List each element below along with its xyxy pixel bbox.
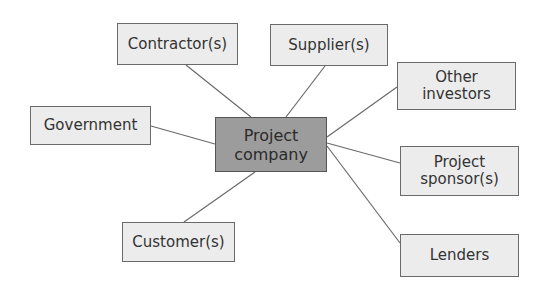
- edge-other-investors: [327, 87, 397, 137]
- node-label: Project company: [234, 126, 308, 164]
- node-contractors: Contractor(s): [117, 23, 238, 65]
- edge-customers: [184, 172, 255, 222]
- edge-suppliers: [286, 66, 325, 117]
- node-government: Government: [30, 106, 151, 145]
- node-label: Project sponsor(s): [420, 154, 499, 188]
- node-label: Contractor(s): [128, 36, 227, 53]
- node-label: Lenders: [430, 247, 490, 264]
- node-project-company: Project company: [215, 117, 327, 172]
- edge-contractors: [186, 65, 251, 117]
- node-label: Other investors: [422, 69, 491, 103]
- node-label: Customer(s): [132, 234, 224, 251]
- node-lenders: Lenders: [400, 234, 519, 277]
- node-label: Government: [44, 117, 138, 134]
- node-project-sponsors: Project sponsor(s): [400, 146, 519, 196]
- edge-government: [151, 126, 215, 144]
- node-label: Supplier(s): [288, 37, 369, 54]
- node-suppliers: Supplier(s): [270, 24, 388, 66]
- node-customers: Customer(s): [122, 222, 235, 262]
- node-other-investors: Other investors: [397, 62, 516, 110]
